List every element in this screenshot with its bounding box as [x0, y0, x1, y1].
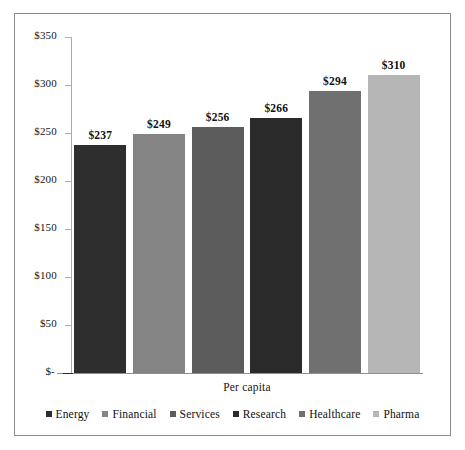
legend-item-label: Energy [56, 408, 90, 420]
chart-legend: EnergyFinancialServicesResearchHealthcar… [15, 408, 450, 420]
legend-item-label: Healthcare [309, 408, 360, 420]
bar-value-label: $294 [323, 75, 347, 87]
legend-swatch-icon [170, 411, 176, 417]
legend-swatch-icon [299, 411, 305, 417]
legend-swatch-icon [102, 411, 108, 417]
y-axis-tick-label: $250 [34, 125, 57, 137]
bar-value-label: $249 [147, 118, 171, 130]
legend-item-energy[interactable]: Energy [46, 408, 90, 420]
x-axis-title: Per capita [71, 381, 423, 393]
bar-value-label: $237 [88, 129, 112, 141]
bar-services[interactable]: $256 [192, 127, 244, 373]
bar-value-label: $266 [264, 102, 288, 114]
plot-area: $237$249$256$266$294$310 [71, 37, 423, 373]
legend-swatch-icon [373, 411, 379, 417]
legend-item-label: Research [243, 408, 286, 420]
legend-swatch-icon [46, 411, 52, 417]
y-axis-tick-label: $300 [34, 77, 57, 89]
y-axis-tick-label: $350 [34, 29, 57, 41]
bar-research[interactable]: $266 [250, 118, 302, 373]
legend-item-research[interactable]: Research [233, 408, 286, 420]
chart-frame: $350$300$250$200$150$100$50$- $237$249$2… [14, 13, 451, 436]
y-axis-tick-label: $- [45, 365, 55, 377]
legend-item-services[interactable]: Services [170, 408, 220, 420]
y-axis-tick-label: $200 [34, 173, 57, 185]
bar-financial[interactable]: $249 [133, 134, 185, 373]
bar-healthcare[interactable]: $294 [309, 91, 361, 373]
legend-item-pharma[interactable]: Pharma [373, 408, 419, 420]
bar-value-label: $256 [206, 111, 230, 123]
y-axis-tick-label: $100 [34, 269, 57, 281]
legend-item-financial[interactable]: Financial [102, 408, 156, 420]
bar-energy[interactable]: $237 [74, 145, 126, 373]
x-axis-baseline [57, 373, 423, 374]
bar-value-label: $310 [382, 59, 406, 71]
y-axis-tick-mark [63, 373, 73, 374]
legend-item-healthcare[interactable]: Healthcare [299, 408, 360, 420]
bar-pharma[interactable]: $310 [368, 75, 420, 373]
y-axis-tick-label: $50 [40, 317, 57, 329]
legend-item-label: Pharma [383, 408, 419, 420]
y-axis-tick-label: $150 [34, 221, 57, 233]
legend-item-label: Services [180, 408, 220, 420]
legend-item-label: Financial [112, 408, 156, 420]
legend-swatch-icon [233, 411, 239, 417]
